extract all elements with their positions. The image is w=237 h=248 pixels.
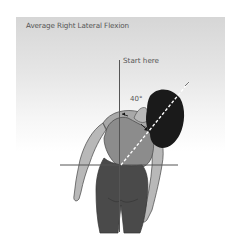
start-here-label: Start here [123,56,159,65]
angle-label: 40° [130,95,142,103]
hair [146,89,184,148]
lateral-flexion-figure [0,0,237,248]
pants [96,158,148,233]
